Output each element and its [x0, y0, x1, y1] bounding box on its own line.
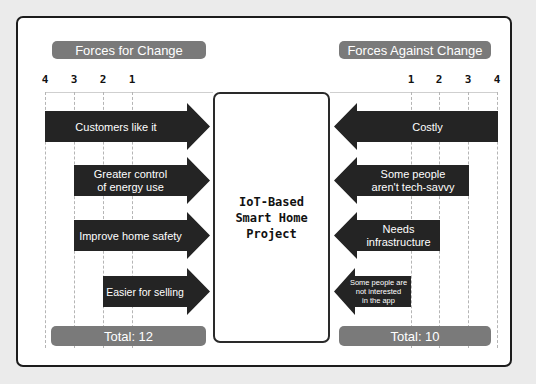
change-proposal-box: IoT-Based Smart Home Project [213, 92, 330, 343]
force-against-label: Some people are not interested in the ap… [346, 276, 411, 307]
center-title-line-2: Smart Home [235, 210, 307, 226]
right-scale-1: 1 [404, 73, 418, 86]
right-scale-4: 4 [490, 73, 504, 86]
left-scale-1: 1 [125, 73, 139, 86]
label-line-2: aren't tech-savvy [372, 181, 455, 194]
label-line-1: Some people are [350, 278, 407, 287]
center-title-line-3: Project [235, 226, 307, 242]
force-for-arrow-1: Customers like it [45, 103, 210, 150]
left-scale-3: 3 [67, 73, 81, 86]
label-line-1: Some people [381, 168, 446, 181]
right-scale-baseline [330, 92, 498, 93]
force-against-arrow-2: Some people aren't tech-savvy [334, 157, 469, 204]
right-scale-2: 2 [432, 73, 446, 86]
label-line-2: of energy use [97, 181, 164, 194]
label-line-2: not interested [356, 287, 401, 296]
force-for-label: Easier for selling [103, 276, 187, 307]
forces-against-total: Total: 10 [339, 326, 491, 346]
force-against-label: Some people aren't tech-savvy [357, 165, 469, 196]
center-title-line-1: IoT-Based [235, 194, 307, 210]
left-scale-2: 2 [96, 73, 110, 86]
force-for-arrow-2: Greater control of energy use [74, 157, 210, 204]
forces-against-change-header: Forces Against Change [339, 41, 491, 59]
force-against-arrow-1: Costly [334, 103, 498, 150]
force-for-arrow-4: Easier for selling [103, 268, 210, 315]
force-against-label: Needs infrastructure [357, 220, 440, 251]
force-for-label: Customers like it [45, 111, 187, 142]
force-against-arrow-4: Some people are not interested in the ap… [334, 268, 411, 315]
right-scale-3: 3 [461, 73, 475, 86]
label-line-3: in the app [362, 296, 395, 305]
force-for-label: Improve home safety [74, 220, 187, 251]
force-for-arrow-3: Improve home safety [74, 212, 210, 259]
forces-for-change-header: Forces for Change [52, 41, 206, 59]
force-for-label: Greater control of energy use [74, 165, 187, 196]
forces-for-total: Total: 12 [51, 326, 206, 346]
force-against-arrow-3: Needs infrastructure [334, 212, 440, 259]
label-line-1: Greater control [94, 168, 167, 181]
force-against-label: Costly [357, 111, 498, 142]
label-line-2: infrastructure [366, 236, 430, 249]
left-scale-4: 4 [38, 73, 52, 86]
left-scale-baseline [45, 92, 213, 93]
label-line-1: Needs [383, 223, 415, 236]
